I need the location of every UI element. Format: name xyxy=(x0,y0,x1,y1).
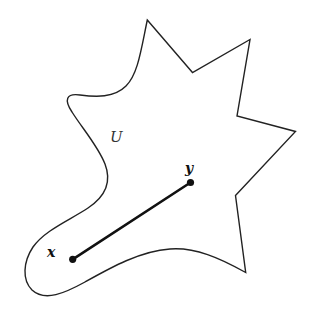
diagram-canvas: U x y xyxy=(0,0,316,317)
region-label-u: U xyxy=(110,128,124,146)
point-x-label: x xyxy=(46,244,56,260)
point-y-dot xyxy=(187,179,194,186)
region-u-boundary xyxy=(25,20,296,296)
point-x-dot xyxy=(69,256,76,263)
star-shaped-region-diagram: U x y xyxy=(0,0,316,317)
point-y-label: y xyxy=(184,160,194,176)
